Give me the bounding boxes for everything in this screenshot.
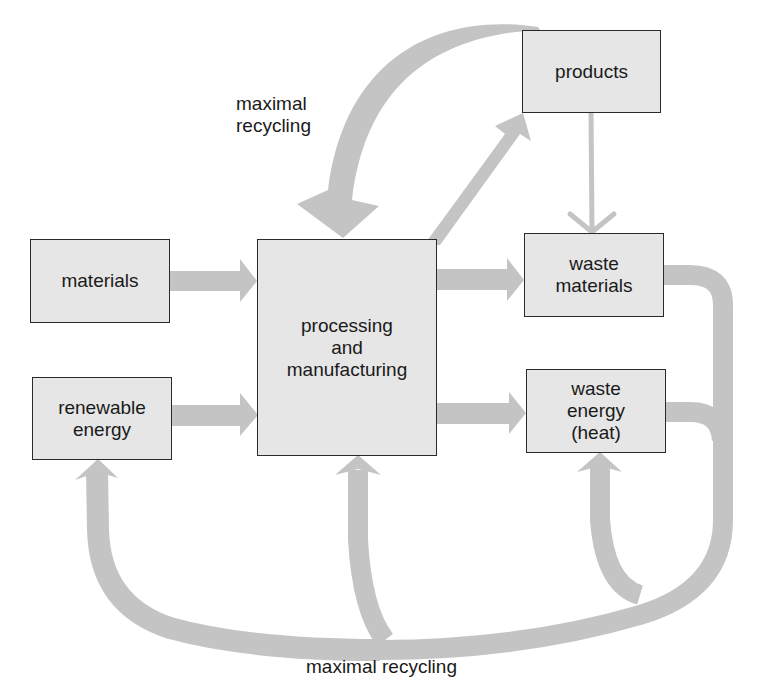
node-processing: processing and manufacturing <box>257 239 437 456</box>
loop-waste-energy <box>665 412 722 440</box>
node-materials-label: materials <box>61 270 138 292</box>
loop-to-processing <box>358 470 385 640</box>
node-processing-label: processing and manufacturing <box>287 315 407 381</box>
loop-to-waste-energy <box>600 466 640 595</box>
node-waste-materials-label: waste materials <box>555 253 632 297</box>
node-waste-energy-label: waste energy (heat) <box>567 378 625 444</box>
arrow-processing-to-waste-energy <box>437 392 526 434</box>
loop-to-renewable <box>97 470 380 650</box>
label-bottom-recycling: maximal recycling <box>306 656 457 678</box>
node-waste-materials: waste materials <box>524 233 664 317</box>
node-renewable-energy: renewable energy <box>32 377 172 460</box>
label-top-recycling: maximal recycling <box>236 93 311 137</box>
node-renewable-energy-label: renewable energy <box>58 397 146 441</box>
node-products-label: products <box>555 61 628 83</box>
arrow-materials-to-processing <box>170 259 257 302</box>
arrow-energy-to-processing <box>171 393 258 436</box>
line-products-to-waste <box>591 112 592 230</box>
node-products: products <box>522 30 661 113</box>
node-waste-energy: waste energy (heat) <box>526 369 666 453</box>
arrow-processing-to-waste-materials <box>436 258 524 301</box>
arrow-processing-to-products <box>424 113 531 245</box>
node-materials: materials <box>30 239 170 323</box>
